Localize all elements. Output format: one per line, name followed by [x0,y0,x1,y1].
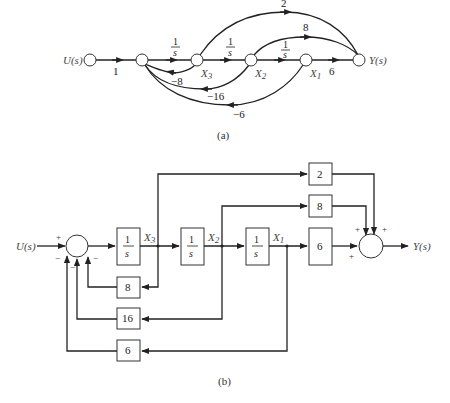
node-sum [136,54,148,66]
wire-x3-to-gain2 [158,174,307,246]
summing-junction-2 [359,234,383,258]
state-label-x1: X1 [309,67,321,81]
state-label-x1-b: X1 [272,231,284,245]
svg-text:1: 1 [189,234,194,245]
gain-block-2: 2 [309,163,332,185]
sign-sum1-input: + [56,232,61,242]
svg-text:s: s [228,47,232,58]
svg-text:6: 6 [125,344,131,356]
feedback-block-6: 6 [117,340,140,361]
node-x1 [300,54,312,66]
svg-text:1: 1 [173,36,178,47]
junction-x1 [285,244,288,247]
wire-gain8-to-sum2 [332,206,366,235]
input-label-b: U(s) [16,240,36,253]
gain-integrator-2: 1 s [226,36,235,58]
branch-x3-to-y-gain2 [200,12,358,55]
sign-sum2-c: + [349,251,354,261]
feedback-block-8: 8 [117,277,140,298]
junction-x2 [220,244,223,247]
summing-junction-1 [66,235,88,257]
wire-fb16-to-sum1 [77,259,117,319]
state-label-x2: X2 [254,67,267,81]
svg-text:6: 6 [317,240,323,252]
branch-x2-to-y-gain8 [254,37,358,55]
branch-x3-feedback-gain-neg8 [145,64,195,73]
gain-integrator-3: 1 s [281,39,290,60]
svg-text:s: s [189,248,193,259]
block-diagram: U(s) + − − − 1 s X3 1 s X2 1 [16,163,431,388]
output-label-b: Y(s) [413,240,431,253]
node-x3 [191,54,203,66]
gain-integrator-1: 1 s [171,36,180,58]
gain-block-8-feedforward: 8 [309,195,332,217]
state-label-x3-b: X3 [143,231,156,245]
diagram-canvas: U(s) Y(s) 1 1 s 1 s 1 s X3 X2 X1 6 2 8 −… [0,0,450,403]
state-label-x3: X3 [200,67,213,81]
node-input [84,54,96,66]
gain-input: 1 [113,65,119,77]
signal-flow-graph: U(s) Y(s) 1 1 s 1 s 1 s X3 X2 X1 6 2 8 −… [63,0,387,142]
input-label: U(s) [63,54,83,67]
node-x2 [245,54,257,66]
gain-feedback-neg6: −6 [233,108,245,120]
sign-sum1-fb-x3: − [93,253,98,263]
svg-text:s: s [173,47,177,58]
gain-block-6-output: 6 [309,228,332,265]
svg-text:1: 1 [228,36,233,47]
state-label-x2-b: X2 [207,231,220,245]
gain-feedback-neg16: −16 [207,90,225,102]
node-output [353,54,365,66]
svg-text:8: 8 [125,281,131,293]
wire-x3-to-fb8 [142,246,158,287]
gain-feedforward-2: 2 [281,0,287,9]
sign-sum1-fb-x1: − [55,253,60,263]
svg-text:s: s [283,49,287,60]
svg-text:8: 8 [317,200,323,212]
junction-x3 [156,244,159,247]
svg-text:1: 1 [125,234,130,245]
integrator-block-1: 1 s [117,228,140,265]
output-label: Y(s) [369,54,387,67]
svg-text:s: s [125,248,129,259]
svg-text:2: 2 [317,168,323,180]
svg-text:s: s [254,248,258,259]
gain-feedforward-8: 8 [303,21,309,33]
svg-text:1: 1 [254,234,259,245]
feedback-block-16: 16 [117,308,140,329]
wire-gain2-to-sum2 [332,174,374,234]
sign-sum1-fb-x2: − [70,262,75,272]
integrator-block-3: 1 s [246,228,269,265]
integrator-block-2: 1 s [181,228,204,265]
gain-feedback-neg8: −8 [171,75,183,87]
sign-sum2-b: + [382,224,387,234]
caption-a: (a) [217,129,230,142]
caption-b: (b) [218,375,231,388]
sign-sum2-a: + [355,224,360,234]
svg-text:16: 16 [122,312,134,324]
gain-output: 6 [329,65,335,77]
branch-x2-feedback-gain-neg16 [145,65,249,89]
